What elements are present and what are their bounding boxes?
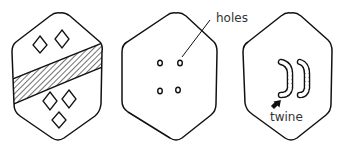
hatched-band [0,40,110,110]
arrow-icon [272,101,280,108]
label-twine: twine [270,111,303,123]
shield-back-holes [122,13,217,140]
diamond-icon [52,112,66,128]
twine-loops [281,62,307,95]
diamond-icon [62,90,76,108]
shield-outline [122,13,217,140]
hole-icon [158,88,163,94]
diamond-icon [43,92,57,110]
shield-diagram [0,0,342,155]
diamond-icon [33,36,47,53]
hole-icon [176,87,181,93]
hole-icon [158,60,163,66]
shield-front [0,13,110,140]
diamond-icon [55,30,69,48]
hole-icon [178,60,183,66]
holes [158,60,183,94]
label-holes: holes [216,12,248,24]
